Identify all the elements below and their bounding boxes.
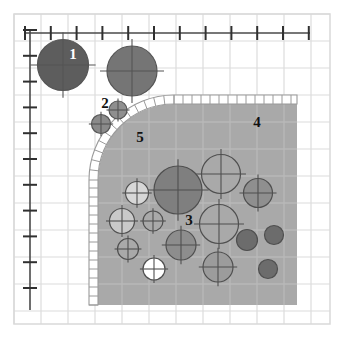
grain-inside-14[interactable] — [259, 260, 278, 279]
grain-inside-12-disc[interactable] — [237, 230, 258, 251]
label-1: 1 — [69, 46, 77, 62]
label-5: 5 — [136, 129, 144, 145]
label-3: 3 — [185, 212, 193, 228]
grain-inside-14-disc[interactable] — [259, 260, 278, 279]
grain-inside-13-disc[interactable] — [265, 226, 284, 245]
label-4: 4 — [253, 114, 261, 130]
grain-inside-12[interactable] — [237, 230, 258, 251]
grain-inside-13[interactable] — [265, 226, 284, 245]
figure-root: 12345 — [0, 0, 344, 338]
diagram-canvas: 12345 — [0, 0, 344, 338]
label-2: 2 — [101, 95, 109, 111]
